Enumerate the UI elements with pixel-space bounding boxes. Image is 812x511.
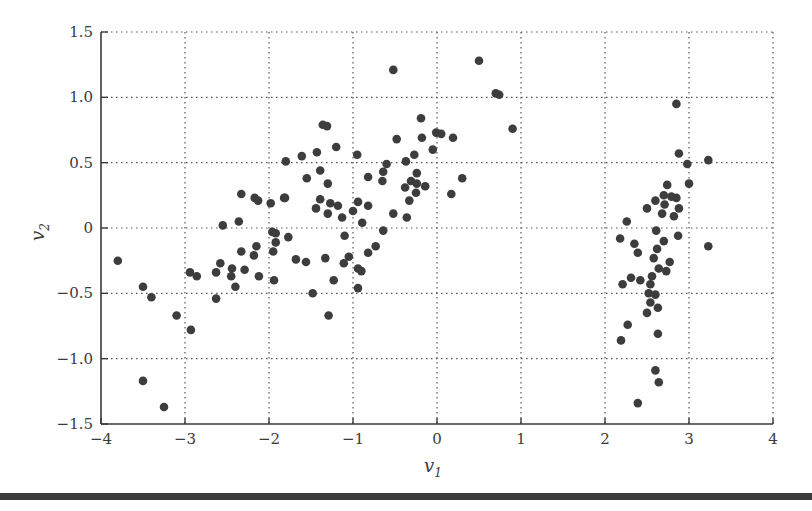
data-point — [389, 66, 398, 75]
x-axis-label: v1 — [424, 455, 442, 480]
data-point — [654, 330, 663, 339]
data-point — [340, 232, 349, 241]
data-point — [417, 114, 426, 123]
data-point — [382, 160, 391, 169]
data-point — [672, 194, 681, 203]
x-axis-ticks: −4−3−2−101234 — [90, 418, 778, 448]
data-point — [654, 303, 663, 312]
data-point — [634, 249, 643, 258]
data-point — [212, 294, 221, 303]
data-point — [392, 135, 401, 144]
data-point — [403, 213, 412, 222]
data-point — [704, 156, 713, 165]
data-point — [379, 168, 388, 177]
data-point — [652, 226, 661, 235]
data-point — [685, 179, 694, 188]
data-point — [429, 145, 438, 154]
x-tick-label: 4 — [768, 430, 778, 448]
y-tick-label: 1.5 — [69, 23, 93, 41]
data-point — [364, 202, 373, 211]
data-point — [354, 198, 363, 207]
data-point — [345, 252, 354, 261]
data-point — [413, 179, 422, 188]
data-point — [357, 267, 366, 276]
data-point — [495, 90, 504, 99]
data-point — [378, 177, 387, 186]
data-point — [449, 134, 458, 143]
data-point — [653, 245, 662, 254]
y-axis-label: v2 — [27, 223, 52, 241]
data-point — [321, 254, 330, 263]
y-tick-label: −1.5 — [57, 415, 93, 433]
x-tick-label: 2 — [600, 430, 610, 448]
x-tick-label: 0 — [432, 430, 442, 448]
data-point — [235, 217, 244, 226]
data-point — [402, 157, 411, 166]
data-point — [371, 242, 380, 251]
data-point — [269, 247, 278, 256]
data-point — [316, 195, 325, 204]
data-point — [227, 272, 236, 281]
data-point — [334, 202, 343, 211]
data-points — [114, 56, 713, 411]
data-point — [324, 311, 333, 320]
data-point — [634, 399, 643, 408]
data-point — [298, 152, 307, 161]
data-point — [187, 326, 196, 335]
data-point — [255, 272, 264, 281]
data-point — [646, 280, 655, 289]
data-point — [379, 226, 388, 235]
data-point — [237, 247, 246, 256]
data-point — [662, 267, 671, 276]
data-point — [303, 174, 312, 183]
data-point — [674, 232, 683, 241]
data-point — [313, 148, 322, 157]
data-point — [670, 212, 679, 221]
data-point — [636, 276, 645, 285]
bottom-divider — [0, 493, 812, 500]
data-point — [660, 237, 669, 246]
data-point — [302, 258, 311, 267]
data-point — [618, 280, 627, 289]
data-point — [219, 221, 228, 230]
y-tick-label: −0.5 — [57, 284, 93, 302]
data-point — [704, 242, 713, 251]
data-point — [353, 151, 362, 160]
y-tick-label: 0.5 — [69, 154, 93, 172]
data-point — [651, 366, 660, 375]
data-point — [271, 238, 280, 247]
data-point — [649, 254, 658, 263]
data-point — [271, 229, 280, 238]
data-point — [252, 242, 261, 251]
data-point — [410, 151, 419, 160]
data-point — [617, 336, 626, 345]
data-point — [324, 179, 333, 188]
data-point — [651, 290, 660, 299]
data-point — [672, 100, 681, 109]
data-point — [284, 233, 293, 242]
data-point — [114, 256, 123, 265]
data-point — [266, 199, 275, 208]
data-point — [193, 272, 202, 281]
data-point — [308, 289, 317, 298]
x-tick-label: −1 — [342, 430, 364, 448]
data-point — [358, 219, 367, 228]
data-point — [354, 284, 363, 293]
data-point — [412, 188, 421, 197]
data-point — [627, 273, 636, 282]
data-point — [212, 268, 221, 277]
data-point — [508, 124, 517, 133]
data-point — [413, 169, 422, 178]
data-point — [160, 403, 169, 412]
data-point — [675, 149, 684, 158]
data-point — [401, 183, 410, 192]
data-point — [665, 258, 674, 267]
data-point — [651, 196, 660, 205]
data-point — [172, 311, 181, 320]
x-tick-label: 3 — [684, 430, 694, 448]
data-point — [349, 207, 358, 216]
data-point — [240, 266, 249, 275]
data-point — [643, 309, 652, 318]
y-tick-label: −1.0 — [57, 350, 93, 368]
grid-lines — [101, 32, 773, 424]
